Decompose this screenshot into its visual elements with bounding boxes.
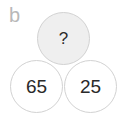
panel-label: b [9,5,20,25]
circle-bottom-right: 25 [64,60,117,113]
circle-value: ? [59,29,68,49]
circle-bottom-left: 65 [10,60,63,113]
circle-value: 25 [80,76,101,98]
circle-value: 65 [26,76,47,98]
circle-top-unknown: ? [37,12,90,65]
